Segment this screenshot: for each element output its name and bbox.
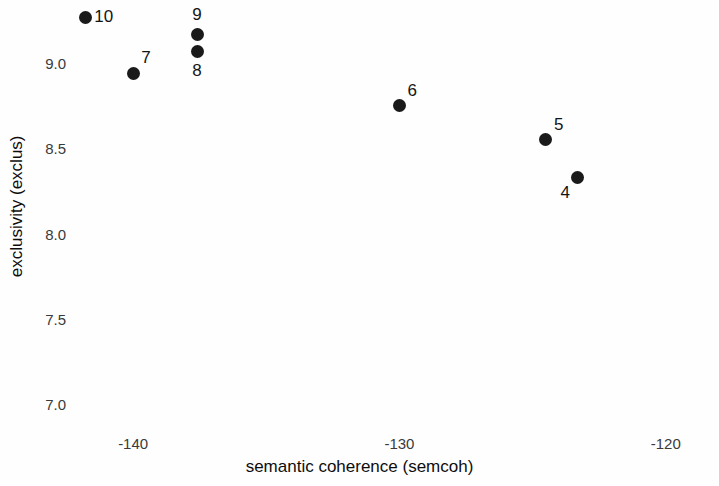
data-point <box>571 171 584 184</box>
data-point-label: 6 <box>407 82 416 99</box>
y-axis-title: exclusivity (exclus) <box>8 86 27 326</box>
plot-panel: 1098765432 <box>0 0 719 430</box>
y-axis-tick: 7.0 <box>22 397 66 412</box>
x-axis-tick-labels: -140-130-120-110 <box>0 436 719 456</box>
data-point <box>127 67 140 80</box>
scatter-plot-figure: 1098765432 7.07.58.08.59.0 -140-130-120-… <box>0 0 719 486</box>
data-point <box>191 28 204 41</box>
data-point-label: 9 <box>192 6 201 23</box>
data-point <box>191 45 204 58</box>
data-point-label: 5 <box>554 116 563 133</box>
data-point-label: 4 <box>560 184 569 201</box>
x-axis-tick: -130 <box>384 436 414 451</box>
data-point <box>393 99 406 112</box>
y-axis-tick: 7.5 <box>22 312 66 327</box>
y-axis-tick: 9.0 <box>22 56 66 71</box>
x-axis-title: semantic coherence (semcoh) <box>0 458 719 477</box>
data-point <box>79 11 92 24</box>
data-point-label: 10 <box>94 8 113 25</box>
data-point <box>539 133 552 146</box>
data-point-label: 7 <box>141 49 150 66</box>
y-axis-tick: 8.0 <box>22 226 66 241</box>
x-axis-tick: -140 <box>118 436 148 451</box>
y-axis-tick: 8.5 <box>22 141 66 156</box>
x-axis-tick: -120 <box>651 436 681 451</box>
data-point-label: 8 <box>192 62 201 79</box>
